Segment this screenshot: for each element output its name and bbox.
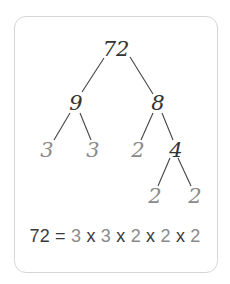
tree-edge xyxy=(80,113,91,140)
equation-factor: 2 xyxy=(190,226,200,246)
equation-times: x xyxy=(86,226,95,246)
tree-node-prime: 3 xyxy=(40,138,53,162)
tree-edges xyxy=(54,57,191,186)
equation-times: x xyxy=(146,226,155,246)
equation-times: x xyxy=(176,226,185,246)
tree-node-prime: 2 xyxy=(130,138,144,162)
tree-node-composite: 8 xyxy=(151,91,164,115)
tree-node-composite: 72 xyxy=(103,37,130,61)
equation-factor: 2 xyxy=(160,226,170,246)
tree-node-prime: 2 xyxy=(187,184,201,208)
equation-lhs: 72 xyxy=(29,226,49,246)
equation-factor: 3 xyxy=(71,226,81,246)
tree-edge xyxy=(130,57,153,94)
tree-node-prime: 2 xyxy=(147,184,161,208)
tree-node-composite: 4 xyxy=(168,138,182,162)
equation-factor: 2 xyxy=(131,226,141,246)
tree-edge xyxy=(141,113,153,140)
tree-edge xyxy=(178,158,191,186)
tree-edge xyxy=(82,58,104,92)
tree-edge xyxy=(54,113,70,140)
tree-edge xyxy=(158,158,170,186)
tree-edge xyxy=(162,113,173,140)
equation-factor: 3 xyxy=(101,226,111,246)
tree-node-prime: 3 xyxy=(86,138,99,162)
equation-equals: = xyxy=(55,226,66,246)
tree-node-composite: 9 xyxy=(69,91,82,115)
equation-times: x xyxy=(116,226,125,246)
factorization-equation: 72 = 3 x 3 x 2 x 2 x 2 xyxy=(0,226,230,247)
